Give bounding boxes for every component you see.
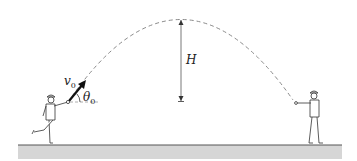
max-height-label: H [186, 54, 196, 66]
height-dimension-line [178, 20, 184, 102]
catcher-person [295, 91, 323, 143]
thrower-person [32, 95, 70, 143]
projectile-diagram [0, 0, 357, 161]
trajectory-curve [68, 19, 293, 102]
angle-arc [77, 94, 80, 102]
initial-velocity-label: v0 [64, 75, 76, 90]
launch-angle-label: θ0 [83, 91, 95, 106]
ground [18, 145, 342, 159]
